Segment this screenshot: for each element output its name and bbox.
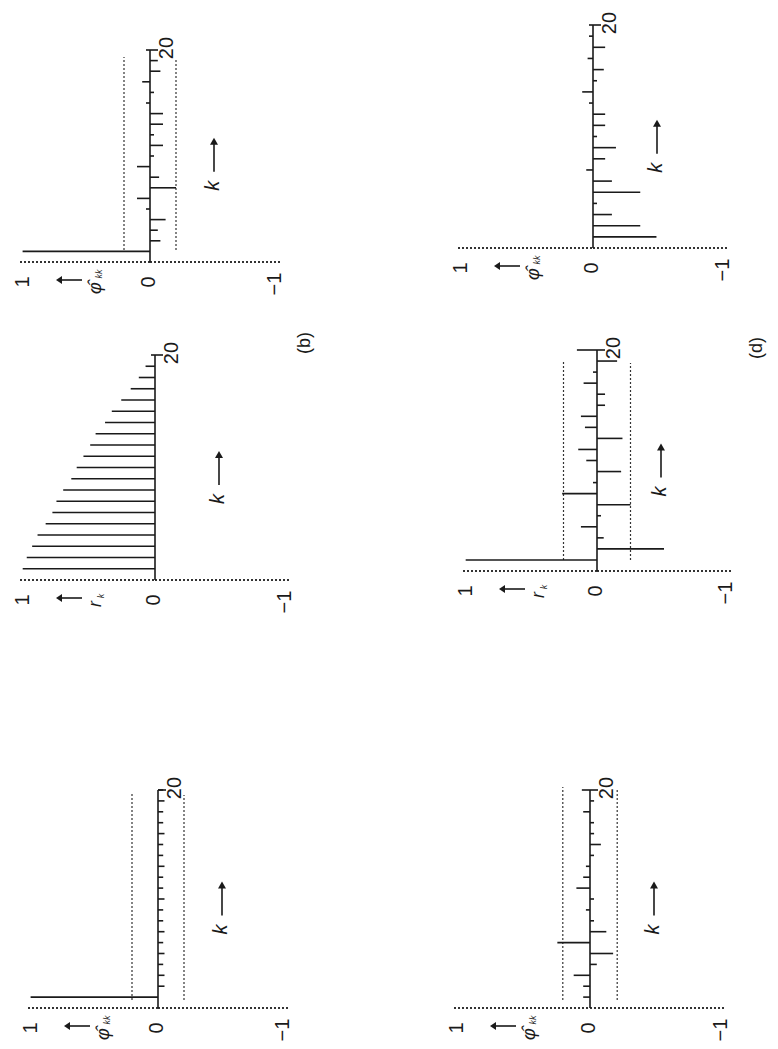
- ylabel-subscript: kk: [528, 1015, 538, 1025]
- acf-pacf-figure: 10−120φ̂kkk10−120rkk10−120φ̂kkk10−120φ̂k…: [0, 0, 778, 1049]
- tick-label-minus-one: −1: [271, 1019, 293, 1042]
- arrowhead-icon: [215, 451, 223, 458]
- panel-a-pacf: 10−120φ̂kkk: [19, 777, 293, 1042]
- ylabel-subscript: kk: [94, 269, 104, 279]
- arrowhead-icon: [490, 1022, 496, 1030]
- arrowhead-icon: [210, 138, 218, 145]
- ylabel-r: r: [528, 591, 548, 598]
- tick-label-zero: 0: [577, 1022, 599, 1033]
- ylabel-phi: φ̂: [519, 1025, 539, 1040]
- arrowhead-icon: [64, 1022, 70, 1030]
- panels-group: 10−120φ̂kkk10−120rkk10−120φ̂kkk10−120φ̂k…: [11, 12, 736, 1042]
- tick-label-k-max: 20: [163, 777, 185, 799]
- tick-label-k-max: 20: [595, 777, 617, 799]
- arrowhead-icon: [657, 443, 665, 450]
- tick-label-k-max: 20: [602, 337, 624, 359]
- ylabel-phi: φ̂: [85, 279, 105, 294]
- xlabel-k: k: [644, 162, 666, 173]
- ylabel-subscript: kk: [532, 255, 542, 265]
- tick-label-plus-one: 1: [19, 1022, 41, 1033]
- panel-labels-group: (b)(d): [294, 332, 766, 359]
- panel-c-pacf: 10−120φ̂kkk: [445, 777, 731, 1042]
- tick-label-minus-one: −1: [711, 259, 733, 282]
- arrowhead-icon: [494, 262, 500, 270]
- tick-label-minus-one: −1: [709, 1019, 731, 1042]
- panel-label: (d): [746, 337, 766, 359]
- arrowhead-icon: [653, 120, 661, 127]
- panel-b-pacf: 10−120φ̂kkk: [11, 37, 285, 296]
- arrowhead-icon: [56, 276, 62, 284]
- ylabel-subscript: kk: [102, 1015, 112, 1025]
- tick-label-plus-one: 1: [11, 276, 33, 287]
- tick-label-minus-one: −1: [714, 582, 736, 605]
- tick-label-zero: 0: [584, 585, 606, 596]
- ylabel-subscript: k: [539, 584, 549, 589]
- tick-label-zero: 0: [142, 594, 164, 605]
- xlabel-k: k: [201, 180, 223, 191]
- tick-label-minus-one: −1: [263, 273, 285, 296]
- tick-label-k-max: 20: [598, 12, 620, 34]
- ylabel-phi: φ̂: [93, 1025, 113, 1040]
- panel-b-acf: 10−120rkk: [11, 342, 295, 614]
- xlabel-k: k: [648, 485, 670, 496]
- tick-label-plus-one: 1: [11, 594, 33, 605]
- arrowhead-icon: [499, 585, 505, 593]
- tick-label-minus-one: −1: [273, 591, 295, 614]
- panel-d-pacf: 10−120φ̂kkk: [449, 12, 733, 282]
- tick-label-zero: 0: [145, 1022, 167, 1033]
- arrowhead-icon: [56, 594, 62, 602]
- tick-label-zero: 0: [137, 276, 159, 287]
- arrowhead-icon: [218, 882, 226, 889]
- xlabel-k: k: [206, 493, 228, 504]
- ylabel-subscript: k: [96, 593, 106, 598]
- panel-label: (b): [294, 332, 314, 354]
- tick-label-plus-one: 1: [445, 1022, 467, 1033]
- tick-label-k-max: 20: [160, 342, 182, 364]
- tick-label-zero: 0: [580, 262, 602, 273]
- tick-label-plus-one: 1: [449, 262, 471, 273]
- panel-d-acf: 10−120rkk: [454, 337, 736, 605]
- arrowhead-icon: [650, 882, 658, 889]
- xlabel-k: k: [209, 924, 231, 935]
- ylabel-r: r: [85, 600, 105, 607]
- tick-label-plus-one: 1: [454, 585, 476, 596]
- ylabel-phi: φ̂: [523, 265, 543, 280]
- tick-label-k-max: 20: [155, 37, 177, 59]
- xlabel-k: k: [641, 924, 663, 935]
